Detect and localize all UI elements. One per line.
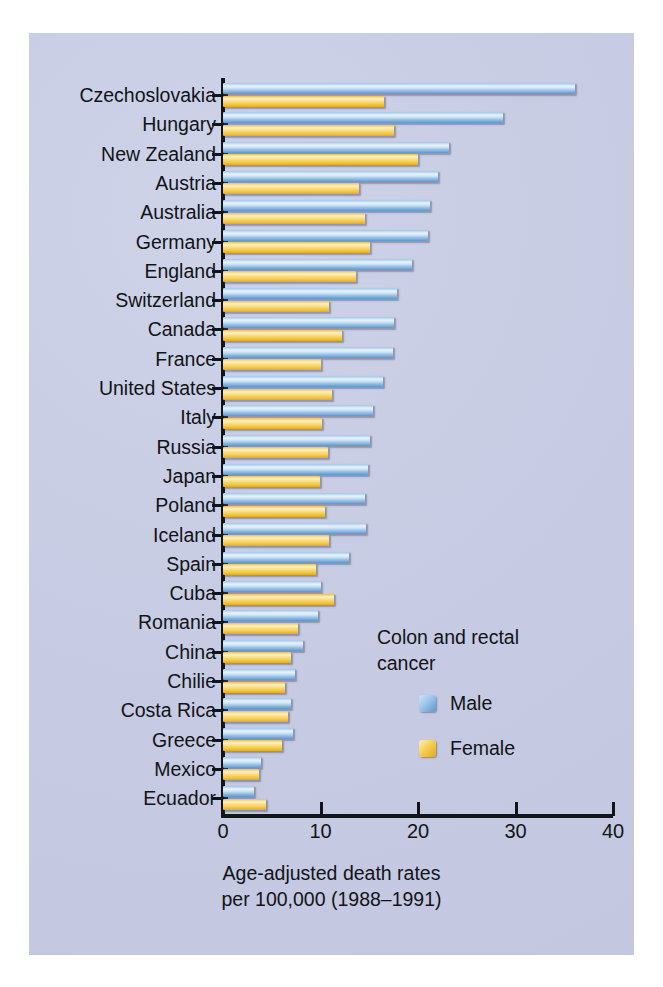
category-label: Costa Rica xyxy=(121,701,216,721)
bar-male xyxy=(223,142,449,153)
bar-male xyxy=(223,112,503,123)
bar-male xyxy=(223,83,575,94)
legend-entry-female[interactable]: Female xyxy=(419,737,617,760)
legend-title-line-2: cancer xyxy=(377,651,617,677)
category-label: Iceland xyxy=(153,526,216,546)
x-tick-label-20: 20 xyxy=(388,820,448,843)
bar-male xyxy=(223,523,366,534)
bar-male xyxy=(223,200,430,211)
category-label: China xyxy=(165,643,216,663)
category-label: Japan xyxy=(163,467,216,487)
bar-male xyxy=(223,610,318,621)
legend-label-female: Female xyxy=(450,737,515,760)
bar-female xyxy=(223,652,291,663)
bar-female xyxy=(223,711,288,722)
bar-female xyxy=(223,154,418,165)
bar-male xyxy=(223,581,321,592)
category-label: Cuba xyxy=(169,584,216,604)
legend-entry-male[interactable]: Male xyxy=(419,692,617,715)
bar-male xyxy=(223,435,370,446)
bar-female xyxy=(223,389,332,400)
bar-female xyxy=(223,301,329,312)
category-label: New Zealand xyxy=(101,145,216,165)
bar-male xyxy=(223,464,368,475)
bar-female xyxy=(223,506,325,517)
category-label: Mexico xyxy=(154,760,216,780)
category-label: England xyxy=(144,262,216,282)
x-tick-10 xyxy=(320,802,323,816)
bar-male xyxy=(223,288,397,299)
bar-female xyxy=(223,330,342,341)
bar-female xyxy=(223,623,298,634)
plot-area: 010203040 CzechoslovakiaHungaryNew Zeala… xyxy=(29,33,634,955)
category-label: Switzerland xyxy=(115,291,216,311)
category-label: France xyxy=(155,350,216,370)
x-axis-caption: Age-adjusted death rates per 100,000 (19… xyxy=(29,861,634,912)
bar-female xyxy=(223,535,329,546)
bar-male xyxy=(223,376,383,387)
bar-male xyxy=(223,317,394,328)
category-label: Italy xyxy=(180,408,216,428)
bar-female xyxy=(223,96,384,107)
bar-male xyxy=(223,757,261,768)
category-label: Czechoslovakia xyxy=(79,86,216,106)
x-tick-label-40: 40 xyxy=(583,820,643,843)
bar-female xyxy=(223,183,359,194)
male-swatch-icon xyxy=(419,695,436,712)
category-label: Romania xyxy=(138,613,216,633)
bar-male xyxy=(223,640,303,651)
bar-female xyxy=(223,769,259,780)
bar-male xyxy=(223,728,293,739)
bar-male xyxy=(223,786,254,797)
category-label: Ecuador xyxy=(143,789,216,809)
figure: 010203040 CzechoslovakiaHungaryNew Zeala… xyxy=(0,0,663,987)
bar-male xyxy=(223,698,291,709)
bar-male xyxy=(223,552,349,563)
bar-female xyxy=(223,213,365,224)
bar-female xyxy=(223,799,266,810)
bar-male xyxy=(223,171,438,182)
category-label: Australia xyxy=(140,203,216,223)
category-label: Germany xyxy=(136,233,216,253)
category-label: Russia xyxy=(156,438,216,458)
bar-female xyxy=(223,682,285,693)
bar-female xyxy=(223,447,328,458)
category-label: United States xyxy=(99,379,216,399)
female-swatch-icon xyxy=(419,740,436,757)
category-label: Austria xyxy=(155,174,216,194)
legend-label-male: Male xyxy=(450,692,492,715)
legend-title-line-1: Colon and rectal xyxy=(377,625,617,651)
x-tick-label-30: 30 xyxy=(486,820,546,843)
chart-panel: 010203040 CzechoslovakiaHungaryNew Zeala… xyxy=(29,33,634,955)
bar-male xyxy=(223,230,428,241)
bar-male xyxy=(223,405,373,416)
bar-male xyxy=(223,259,412,270)
bar-male xyxy=(223,347,393,358)
chart-legend: Colon and rectal cancer Male Female xyxy=(377,625,617,782)
caption-line-2: per 100,000 (1988–1991) xyxy=(29,887,634,913)
bar-female xyxy=(223,594,334,605)
bar-female xyxy=(223,476,320,487)
bar-male xyxy=(223,493,365,504)
x-tick-20 xyxy=(417,802,420,816)
bar-female xyxy=(223,242,370,253)
bar-female xyxy=(223,564,316,575)
caption-line-1: Age-adjusted death rates xyxy=(29,861,634,887)
bar-female xyxy=(223,125,394,136)
category-label: Poland xyxy=(155,496,216,516)
bar-female xyxy=(223,359,321,370)
category-label: Canada xyxy=(148,320,216,340)
bar-male xyxy=(223,669,295,680)
category-label: Spain xyxy=(166,555,216,575)
x-tick-label-10: 10 xyxy=(291,820,351,843)
bar-female xyxy=(223,271,356,282)
bar-female xyxy=(223,740,282,751)
x-tick-30 xyxy=(515,802,518,816)
bar-female xyxy=(223,418,322,429)
x-tick-label-0: 0 xyxy=(193,820,253,843)
legend-title: Colon and rectal cancer xyxy=(377,625,617,676)
x-tick-40 xyxy=(612,802,615,816)
category-label: Greece xyxy=(152,731,216,751)
category-label: Hungary xyxy=(142,115,216,135)
category-label: Chilie xyxy=(167,672,216,692)
